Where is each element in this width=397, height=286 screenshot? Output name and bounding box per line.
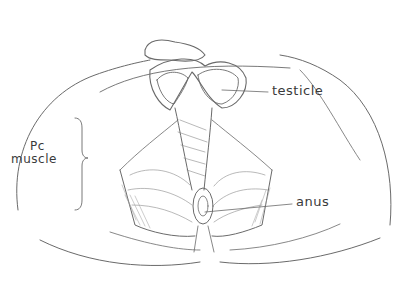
pc-muscle-left [128,170,192,222]
penis-shaft [145,40,205,61]
testicle-label: testicle [272,84,323,97]
pc-label-line2: muscle [11,153,57,165]
anus-inner [198,196,208,216]
pelvic-diaphragm-right [212,170,272,236]
left-testicle [157,72,188,104]
bottom-contour-3 [230,224,340,250]
upper-contour [100,66,290,92]
pc-muscle-brace [75,118,88,210]
left-thigh-contour [17,60,150,210]
coccyx-line [194,226,214,252]
bottom-contour-right [220,238,380,264]
bottom-contour-2 [110,232,200,250]
upper-right-muscle [212,120,272,170]
anus-pointer-line [205,204,292,212]
anus-ring [193,188,213,224]
upper-left-muscle [120,120,178,170]
pelvic-floor-drawing [0,0,397,286]
bulbospongiosus-right [204,108,212,190]
testicles-outline [150,59,246,110]
pc-muscle-right [214,172,268,222]
pc-label-line1: Pc [30,140,45,152]
anus-label: anus [296,195,329,208]
bottom-contour-left [40,240,200,266]
right-testicle [198,69,238,104]
